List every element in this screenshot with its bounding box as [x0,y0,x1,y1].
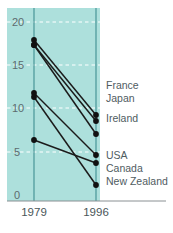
y-tick-label-5: 5 [14,146,20,158]
x-axis-ticks: 1979 1996 [21,206,109,218]
series-labels: France Japan Ireland USA Canada New Zeal… [106,79,168,187]
y-tick-label-0: 0 [14,189,20,201]
data-point-france-1996 [93,112,99,118]
x-tick-label-1996: 1996 [83,206,109,218]
data-point-canada-1996 [93,160,99,166]
series-label-canada: Canada [106,162,143,174]
data-point-france-1979 [31,37,37,43]
x-tick-label-1979: 1979 [21,206,47,218]
y-tick-label-10: 10 [12,102,24,114]
y-tick-label-15: 15 [12,59,24,71]
data-point-canada-1979 [31,137,37,143]
data-point-new-zealand-1996 [93,182,99,188]
series-label-france: France [106,79,139,91]
series-label-usa: USA [106,149,128,161]
data-point-ireland-1979 [31,42,37,48]
y-tick-label-20: 20 [12,16,24,28]
data-point-japan-1996 [93,118,99,124]
chart-canvas: 20 15 10 5 0 [0,0,173,233]
data-point-ireland-1996 [93,131,99,137]
data-point-usa-1996 [93,152,99,158]
series-label-ireland: Ireland [106,112,138,124]
line-chart: 20 15 10 5 0 [0,0,173,233]
series-label-new-zealand: New Zealand [106,175,168,187]
series-label-japan: Japan [106,92,135,104]
data-point-new-zealand-1979 [31,94,37,100]
